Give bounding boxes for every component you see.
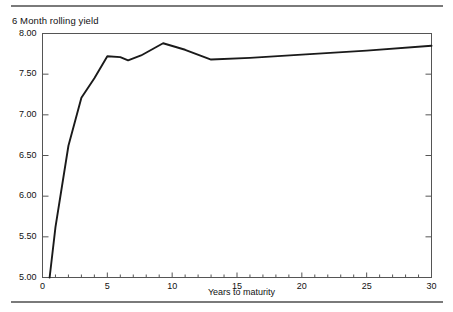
x-axis-title: Years to maturity <box>0 287 453 297</box>
plot-area <box>0 0 453 312</box>
series-line <box>50 43 432 277</box>
y-tick-label: 7.50 <box>7 68 37 78</box>
axis-frame <box>43 34 432 278</box>
y-tick-label: 5.50 <box>7 231 37 241</box>
y-tick-label: 6.00 <box>7 190 37 200</box>
plot-border <box>43 34 432 278</box>
y-tick-label: 7.00 <box>7 109 37 119</box>
y-tick-label: 6.50 <box>7 150 37 160</box>
axis-ticks <box>43 74 432 277</box>
y-tick-label: 8.00 <box>7 28 37 38</box>
chart-figure: 6 Month rolling yield 5.005.506.006.507.… <box>0 0 453 312</box>
data-series <box>50 43 432 277</box>
x-axis-title-text: Years to maturity <box>178 287 275 297</box>
